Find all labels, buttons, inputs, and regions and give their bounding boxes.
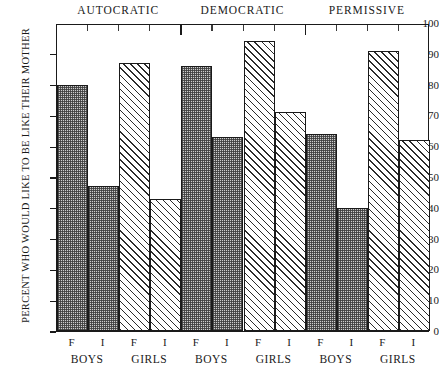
subgroup-label-girls-3: GIRLS	[243, 353, 305, 365]
subgroup-label-boys-2: BOYS	[180, 353, 242, 365]
x-axis-tick-label: F	[180, 336, 211, 348]
group-title-permissive: PERMISSIVE	[305, 4, 429, 16]
x-axis-tick-label: I	[87, 336, 118, 348]
bar-autocratic-girls-f	[119, 63, 150, 331]
group-title-autocratic: AUTOCRATIC	[56, 4, 180, 16]
bar-democratic-girls-f	[244, 41, 275, 331]
bar-permissive-girls-f	[368, 51, 399, 331]
bar-democratic-boys-i	[212, 137, 243, 331]
x-axis-tick-label: I	[274, 336, 305, 348]
subgroup-label-boys-4: BOYS	[305, 353, 367, 365]
bar-autocratic-boys-i	[88, 186, 119, 331]
bar-democratic-boys-f	[181, 66, 212, 331]
bar-permissive-girls-i	[399, 140, 430, 331]
x-axis-tick-label: I	[336, 336, 367, 348]
x-axis-tick-label: I	[149, 336, 180, 348]
subgroup-label-girls-1: GIRLS	[118, 353, 180, 365]
x-axis-tick-label: I	[398, 336, 429, 348]
group-title-democratic: DEMOCRATIC	[180, 4, 304, 16]
x-axis-tick-label: F	[118, 336, 149, 348]
subgroup-label-girls-5: GIRLS	[367, 353, 429, 365]
subgroup-label-boys-0: BOYS	[56, 353, 118, 365]
bar-chart-figure: PERCENT WHO WOULD LIKE TO BE LIKE THEIR …	[0, 0, 439, 387]
bar-permissive-boys-f	[306, 134, 337, 331]
x-axis-tick-label: F	[56, 336, 87, 348]
x-axis-tick-label: F	[243, 336, 274, 348]
y-axis-title: PERCENT WHO WOULD LIKE TO BE LIKE THEIR …	[20, 11, 31, 341]
bar-autocratic-boys-f	[57, 85, 88, 331]
x-axis-tick-label: I	[211, 336, 242, 348]
x-axis-tick-label: F	[305, 336, 336, 348]
plot-area	[56, 24, 429, 332]
bar-permissive-boys-i	[337, 208, 368, 331]
bar-democratic-girls-i	[275, 112, 306, 331]
bar-autocratic-girls-i	[150, 199, 181, 331]
x-axis-tick-label: F	[367, 336, 398, 348]
